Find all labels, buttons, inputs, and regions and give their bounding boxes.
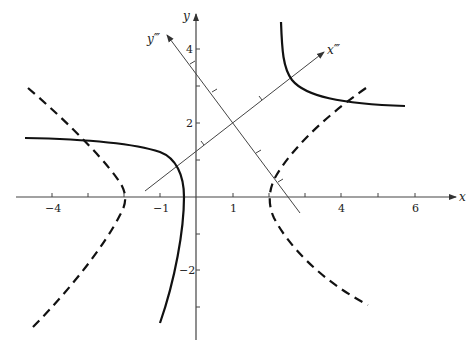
rotated-y-axis: y‴: [146, 32, 300, 213]
x-tick-label-1: 1: [230, 202, 237, 215]
rotated-y-axis-label: y‴: [146, 32, 161, 46]
x-tick-label-neg1: −1: [153, 202, 169, 215]
dashed-hyperbola-left: [28, 88, 125, 330]
solid-hyperbola-left: [25, 138, 184, 323]
y-tick-label-4: 4: [186, 43, 193, 56]
rotated-x-axis-label: x‴: [327, 43, 341, 57]
solid-hyperbola-upper-right: [281, 22, 405, 106]
x-tick-label-4: 4: [338, 202, 345, 215]
x-axis-label: x: [459, 190, 466, 204]
x-tick-label-6: 6: [412, 202, 419, 215]
rotated-x-axis: x‴: [145, 43, 341, 191]
x-tick-label-neg4: −4: [45, 202, 61, 215]
y-tick-label-2: 2: [186, 117, 193, 130]
y-tick-label-neg2: −2: [179, 264, 195, 277]
hyperbola-diagram: −4 −1 1 4 6 x 4 2 −2 y x‴ y‴: [0, 0, 476, 358]
y-axis-label: y: [182, 9, 190, 23]
y-axis: 4 2 −2 y: [179, 9, 200, 340]
x-axis: −4 −1 1 4 6 x: [16, 190, 466, 215]
